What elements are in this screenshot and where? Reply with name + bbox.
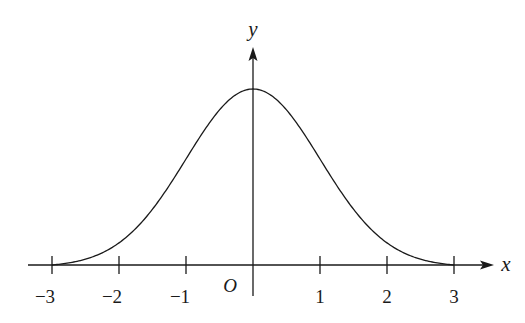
y-axis-label: y <box>246 17 258 41</box>
origin-label: O <box>223 275 237 296</box>
tick-label-3: 3 <box>449 286 459 307</box>
tick-label-neg3: −3 <box>35 286 55 307</box>
x-axis-label: x <box>500 252 511 276</box>
tick-label-1: 1 <box>315 286 325 307</box>
normal-curve-chart: −3 −2 −1 1 2 3 O x y <box>0 0 525 323</box>
tick-label-neg1: −1 <box>170 286 190 307</box>
tick-label-neg2: −2 <box>102 286 122 307</box>
tick-label-2: 2 <box>382 286 392 307</box>
